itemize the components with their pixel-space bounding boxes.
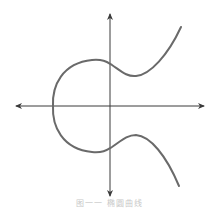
elliptic-curve-figure (0, 0, 219, 210)
curve-upper-branch (53, 27, 181, 106)
curve-lower-branch (53, 106, 179, 186)
figure-caption: 图一一 椭圆曲线 (0, 199, 219, 209)
